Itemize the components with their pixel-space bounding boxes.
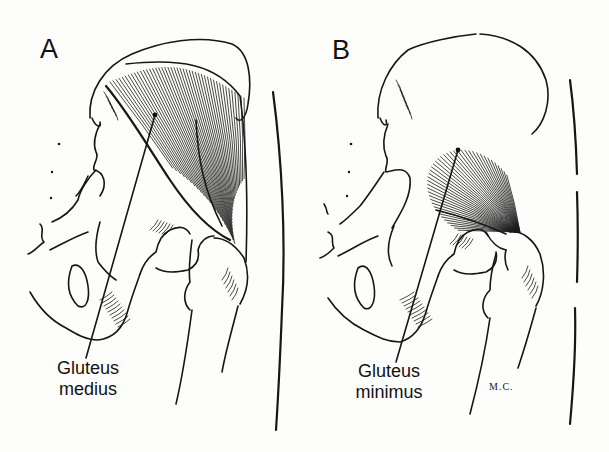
label-line-2: medius bbox=[38, 379, 138, 400]
label-line-2: minimus bbox=[334, 382, 444, 403]
panel-letter-a: A bbox=[40, 36, 58, 63]
label-line-1: Gluteus bbox=[38, 358, 138, 379]
leader-dot-b bbox=[456, 148, 461, 153]
leader-line-b bbox=[396, 150, 458, 362]
anatomy-figure: A Gluteus medius bbox=[0, 0, 609, 452]
muscle-fibers-a bbox=[110, 67, 245, 243]
muscle-fibers-b bbox=[428, 150, 521, 232]
panel-letter-b: B bbox=[332, 37, 350, 64]
panel-b-gluteus-minimus: B Gluteus minimus M.C. bbox=[300, 0, 609, 452]
label-gluteus-minimus: Gluteus minimus bbox=[334, 361, 444, 403]
panel-a-gluteus-medius: A Gluteus medius bbox=[0, 0, 300, 452]
leader-dot-a bbox=[153, 113, 158, 118]
label-gluteus-medius: Gluteus medius bbox=[38, 358, 138, 400]
artist-signature: M.C. bbox=[489, 381, 514, 392]
label-line-1: Gluteus bbox=[334, 361, 444, 382]
